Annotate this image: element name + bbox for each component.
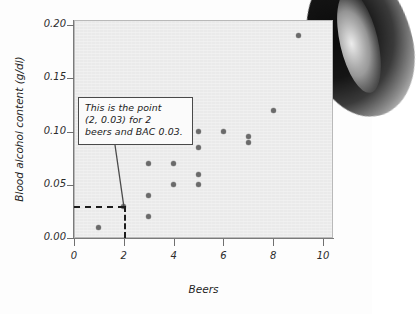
x-tick-8 bbox=[273, 239, 274, 246]
y-tick-0.05 bbox=[67, 185, 74, 186]
x-tick-label-10: 10 bbox=[303, 250, 343, 261]
y-tick-label-0.20: 0.20 bbox=[44, 18, 66, 29]
guide-line-vertical bbox=[124, 206, 126, 238]
x-tick-label-6: 6 bbox=[203, 250, 243, 261]
y-tick-0.00 bbox=[67, 238, 74, 239]
x-tick-10 bbox=[323, 239, 324, 246]
y-axis-title: Blood alcohol content (g/dl) bbox=[13, 24, 25, 234]
x-tick-label-4: 4 bbox=[154, 250, 194, 261]
annotation-callout: This is the point (2, 0.03) for 2 beers … bbox=[78, 97, 193, 145]
x-tick-label-2: 2 bbox=[104, 250, 144, 261]
x-tick-label-8: 8 bbox=[253, 250, 293, 261]
y-tick-0.10 bbox=[67, 132, 74, 133]
x-tick-6 bbox=[223, 239, 224, 246]
y-tick-label-0.05: 0.05 bbox=[44, 178, 66, 189]
data-point bbox=[271, 108, 276, 113]
x-axis-line bbox=[73, 238, 334, 239]
x-tick-4 bbox=[174, 239, 175, 246]
y-tick-0.20 bbox=[67, 25, 74, 26]
data-point bbox=[246, 140, 251, 145]
annotation-line-1: This is the point bbox=[85, 102, 187, 114]
y-tick-0.15 bbox=[67, 78, 74, 79]
y-tick-label-0.10: 0.10 bbox=[44, 125, 66, 136]
x-tick-0 bbox=[74, 239, 75, 246]
data-point bbox=[196, 172, 201, 177]
x-tick-2 bbox=[124, 239, 125, 246]
annotation-line-3: beers and BAC 0.03. bbox=[85, 126, 187, 138]
x-axis-title: Beers bbox=[74, 283, 333, 295]
scan-artifact-highlight bbox=[329, 0, 389, 97]
annotation-line-2: (2, 0.03) for 2 bbox=[85, 114, 187, 126]
y-tick-label-0.15: 0.15 bbox=[44, 71, 66, 82]
y-tick-label-0.00: 0.00 bbox=[44, 231, 66, 242]
x-tick-label-0: 0 bbox=[54, 250, 94, 261]
guide-line-horizontal bbox=[74, 206, 124, 208]
